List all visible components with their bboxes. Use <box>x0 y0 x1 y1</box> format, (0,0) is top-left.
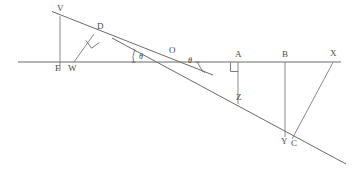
label-point-d: D <box>97 22 104 31</box>
angle-arc-theta-left <box>133 51 135 63</box>
segment-xc <box>292 63 333 140</box>
label-angle-theta-left: θ <box>139 53 143 61</box>
right-angle-mark-a <box>231 63 239 72</box>
label-point-w: W <box>68 64 77 73</box>
label-point-c: C <box>291 139 297 148</box>
label-point-x: X <box>330 49 337 58</box>
diagram-canvas <box>0 0 352 180</box>
label-point-z: Z <box>236 93 242 102</box>
label-point-a: A <box>235 50 242 59</box>
label-point-e: E <box>55 64 61 73</box>
geometry-diagram: V D E W O A B X Z Y C θ θ <box>0 0 352 180</box>
label-point-b: B <box>282 50 288 59</box>
descending-ray-oc <box>112 38 346 164</box>
label-point-v: V <box>57 4 64 13</box>
label-angle-theta-right: θ <box>188 57 192 65</box>
label-point-y: Y <box>281 137 288 146</box>
label-point-o: O <box>169 46 176 55</box>
